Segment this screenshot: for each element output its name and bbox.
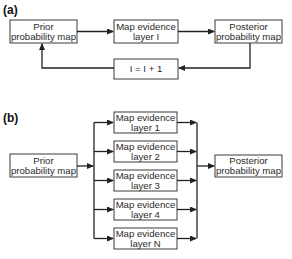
b-prior-line2: probability map [11, 165, 76, 176]
b-layer-n-line2: layer N [130, 238, 160, 249]
a-prior-box: Prior probability map [10, 20, 77, 43]
b-layer-4-box: Map evidence layer 4 [114, 199, 177, 220]
panel-a-label: (a) [3, 3, 18, 17]
b-posterior-box: Posterior probability map [215, 155, 282, 177]
a-evidence-line2: layer I [133, 31, 159, 42]
b-prior-box: Prior probability map [10, 154, 77, 177]
b-layer-1-line2: layer 1 [131, 122, 160, 133]
a-prior-line2: probability map [11, 31, 76, 42]
a-evidence-box: Map evidence layer I [114, 20, 178, 43]
b-layer-3-line2: layer 3 [131, 180, 160, 191]
panel-b-label: (b) [3, 111, 18, 125]
b-posterior-line2: probability map [216, 165, 281, 176]
a-arrow-posterior-to-loop [179, 43, 250, 68]
a-posterior-line2: probability map [216, 31, 281, 42]
a-loop-box: I = I + 1 [114, 59, 178, 79]
b-layer-2-line2: layer 2 [131, 151, 160, 162]
diagram-canvas: (a) Prior probability map Map evidence l… [0, 0, 292, 259]
b-layer-2-box: Map evidence layer 2 [114, 141, 177, 162]
a-posterior-box: Posterior probability map [215, 20, 282, 43]
b-layer-3-box: Map evidence layer 3 [114, 170, 177, 191]
a-arrow-loop-to-prior [42, 44, 114, 68]
b-layer-4-line2: layer 4 [131, 209, 160, 220]
b-layer-1-box: Map evidence layer 1 [114, 112, 177, 133]
b-layer-n-box: Map evidence layer N [114, 228, 177, 249]
a-loop-text: I = I + 1 [130, 63, 163, 74]
